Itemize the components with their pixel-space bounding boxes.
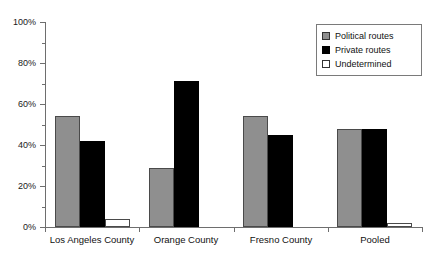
x-tick [234, 227, 235, 232]
legend-item-label: Private routes [335, 45, 391, 55]
chart-legend: Political routesPrivate routesUndetermin… [316, 24, 422, 76]
x-axis-category-label: Orange County [154, 234, 218, 245]
bar [243, 116, 268, 227]
bar [362, 129, 387, 227]
legend-item-label: Political routes [335, 31, 394, 41]
y-tick-label: 100% [0, 17, 36, 27]
x-tick [328, 227, 329, 232]
x-tick [45, 227, 46, 232]
y-tick-label: 20% [0, 181, 36, 191]
x-axis-category-label: Pooled [360, 234, 390, 245]
legend-item-label: Undetermined [335, 59, 392, 69]
bar [55, 116, 80, 227]
bar [149, 168, 174, 227]
bar [174, 81, 199, 227]
y-tick-label: 40% [0, 140, 36, 150]
y-tick-label: 80% [0, 58, 36, 68]
x-tick [139, 227, 140, 232]
bar [80, 141, 105, 227]
bar [268, 135, 293, 227]
bar [387, 223, 412, 227]
legend-swatch-undetermined [322, 60, 330, 68]
y-tick-label: 60% [0, 99, 36, 109]
x-axis-category-label: Los Angeles County [50, 234, 135, 245]
y-tick-label: 0% [0, 222, 36, 232]
legend-swatch-private [322, 46, 330, 54]
x-tick [422, 227, 423, 232]
legend-item[interactable]: Political routes [322, 29, 416, 43]
legend-swatch-political [322, 32, 330, 40]
legend-item[interactable]: Undetermined [322, 57, 416, 71]
bar-chart: 0%20%40%60%80%100% Los Angeles CountyOra… [0, 0, 427, 259]
bar [337, 129, 362, 227]
legend-item[interactable]: Private routes [322, 43, 416, 57]
x-axis-category-label: Fresno County [250, 234, 312, 245]
bar [105, 219, 130, 227]
